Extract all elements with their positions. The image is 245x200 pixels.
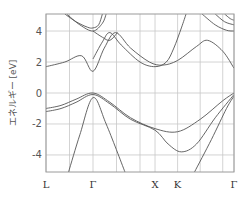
k-point-label: L — [43, 179, 50, 190]
y-tick-label: 2 — [36, 57, 42, 68]
band-conduction-4 — [67, 14, 106, 31]
k-point-label: Γ — [231, 179, 238, 190]
y-axis-ticks: 420-2-4 — [32, 26, 42, 161]
k-point-label: Γ — [90, 179, 97, 190]
gridlines — [46, 14, 234, 172]
band-structure-chart: 420-2-4 LΓXKΓ エネルギー [eV] — [0, 0, 245, 200]
y-axis-label: エネルギー [eV] — [8, 60, 18, 127]
k-point-label: X — [151, 179, 159, 190]
band-conduction-8 — [225, 14, 234, 20]
k-point-label: K — [174, 179, 182, 190]
y-tick-label: 4 — [36, 26, 42, 37]
y-tick-label: -2 — [32, 118, 42, 129]
band-conduction-3 — [65, 14, 103, 28]
y-tick-label: 0 — [36, 88, 42, 99]
y-tick-label: -4 — [32, 149, 42, 160]
x-axis-k-point-labels: LΓXKΓ — [43, 179, 238, 190]
